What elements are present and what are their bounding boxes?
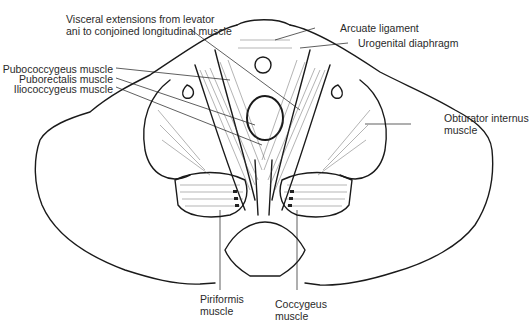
sacrum [225, 222, 305, 276]
label-obturator-internus-line2: muscle [444, 124, 477, 136]
label-coccygeus-line2: muscle [275, 310, 308, 322]
label-iliococcygeus: Iliococcygeus muscle [0, 83, 113, 95]
right-hip-bone-outline [290, 25, 493, 285]
anal-opening [247, 96, 283, 140]
label-visceral-extensions-line1: Visceral extensions from levator [66, 13, 215, 25]
pubic-symphysis [237, 20, 290, 25]
pelvic-floor-diagram: Visceral extensions from levator ani to … [0, 0, 529, 329]
label-urogenital-diaphragm: Urogenital diaphragm [358, 37, 458, 49]
label-coccygeus-line1: Coccygeus [275, 298, 327, 310]
urethra-opening [255, 57, 271, 73]
label-piriformis-line2: muscle [200, 305, 233, 317]
label-piriformis-line1: Piriformis [200, 293, 244, 305]
anatomy-drawing [0, 0, 529, 329]
label-visceral-extensions-line2: ani to conjoined longitudinal muscle [66, 25, 232, 37]
label-obturator-internus-line1: Obturator internus [444, 112, 529, 124]
label-arcuate-ligament: Arcuate ligament [340, 22, 419, 34]
